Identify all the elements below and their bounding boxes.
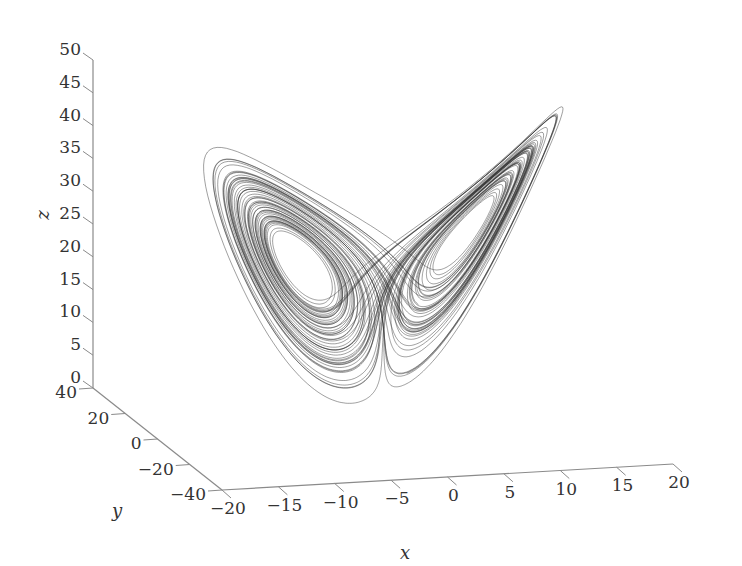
- z-tick-label: 5: [70, 336, 81, 353]
- y-tick-label: −20: [138, 461, 174, 478]
- z-tick-label: 30: [59, 172, 81, 189]
- z-tick-label: 20: [59, 238, 81, 255]
- attractor-trajectory: [204, 107, 563, 404]
- x-tick-label: 0: [448, 487, 459, 504]
- z-tick-label: 25: [59, 205, 81, 222]
- x-tick-label: 15: [612, 477, 634, 494]
- y-tick-label: 40: [55, 384, 77, 401]
- y-tick-label: 0: [131, 435, 142, 452]
- x-tick-label: 5: [504, 484, 515, 501]
- x-tick-label: −15: [266, 497, 302, 514]
- z-tick-label: 35: [59, 139, 81, 156]
- y-axis-label: y: [112, 502, 122, 520]
- z-tick-label: 15: [59, 271, 81, 288]
- z-tick-label: 50: [59, 41, 81, 58]
- x-tick-label: −10: [323, 494, 359, 511]
- x-tick-label: −5: [385, 490, 410, 507]
- z-tick-label: 40: [59, 107, 81, 124]
- y-tick-label: 20: [88, 410, 110, 427]
- x-tick-label: −20: [210, 500, 246, 517]
- x-tick-label: 10: [555, 481, 577, 498]
- z-tick-label: 45: [59, 74, 81, 91]
- z-axis-label: z: [34, 210, 52, 219]
- x-axis-label: x: [400, 544, 410, 562]
- y-tick-label: −40: [170, 486, 206, 503]
- z-tick-label: 10: [59, 303, 81, 320]
- x-tick-label: 20: [668, 474, 690, 491]
